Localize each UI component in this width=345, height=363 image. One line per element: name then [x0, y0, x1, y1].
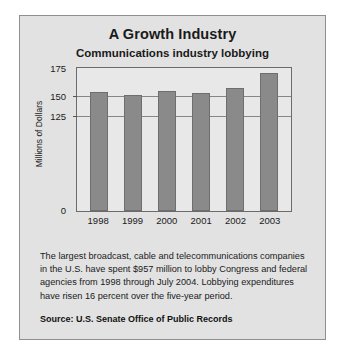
chart-titles: A Growth Industry Communications industr… [20, 16, 325, 61]
y-tick-125: 125 [28, 111, 66, 122]
bar-2001 [192, 93, 210, 211]
caption-text: The largest broadcast, cable and telecom… [40, 250, 309, 303]
bar-1999 [124, 95, 142, 211]
x-label-1998: 1998 [83, 215, 113, 226]
y-tick-150: 150 [28, 90, 66, 101]
x-label-2002: 2002 [220, 215, 250, 226]
x-label-1999: 1999 [117, 215, 147, 226]
bar-1998 [90, 92, 108, 211]
chart-subtitle: Communications industry lobbying [20, 45, 325, 61]
chart-title: A Growth Industry [20, 25, 325, 43]
y-tick-0: 0 [28, 205, 66, 216]
bar-series [77, 68, 291, 211]
figure-panel: A Growth Industry Communications industr… [19, 15, 326, 340]
bar-2000 [158, 91, 176, 211]
y-tick-175: 175 [28, 63, 66, 74]
x-label-2003: 2003 [255, 215, 285, 226]
x-label-2000: 2000 [152, 215, 182, 226]
chart-area: Millions of Dollars 175 150 125 0 [20, 67, 327, 242]
bar-2002 [226, 88, 244, 211]
y-axis-ticks: 175 150 125 0 [28, 67, 66, 212]
source-text: Source: U.S. Senate Office of Public Rec… [40, 314, 309, 324]
x-axis-labels: 1998 1999 2000 2001 2002 2003 [76, 215, 292, 226]
plot-frame [76, 67, 292, 212]
bar-2003 [260, 73, 278, 211]
x-label-2001: 2001 [186, 215, 216, 226]
